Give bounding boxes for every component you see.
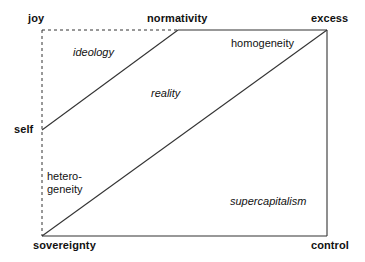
- label-self: self: [14, 123, 33, 135]
- diagram-lines: [0, 0, 365, 262]
- region-label-homogeneity: homogeneity: [231, 37, 294, 49]
- diagram-canvas: joy normativity excess self sovereignty …: [0, 0, 365, 262]
- label-excess: excess: [311, 12, 348, 24]
- label-joy: joy: [28, 12, 44, 24]
- label-control: control: [311, 239, 349, 251]
- label-sovereignty: sovereignty: [33, 239, 96, 251]
- diagonal-self-normativity: [42, 30, 178, 130]
- region-label-reality: reality: [151, 87, 180, 99]
- region-label-heterogeneity: hetero- geneity: [47, 170, 82, 196]
- label-normativity: normativity: [147, 12, 207, 24]
- region-label-supercapitalism: supercapitalism: [230, 195, 306, 207]
- region-label-ideology: ideology: [73, 46, 114, 58]
